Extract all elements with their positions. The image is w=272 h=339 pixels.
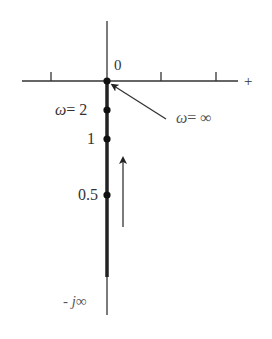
omega-symbol: ω <box>55 101 66 118</box>
omega-infinity-value: = ∞ <box>187 109 211 126</box>
negative-j-infinity-label: - j∞ <box>63 294 87 309</box>
point-omega-0.5 <box>103 191 110 198</box>
omega-0.5-label: 0.5 <box>78 187 98 203</box>
minus-sign: - <box>63 293 72 309</box>
omega-1-label: 1 <box>87 131 95 147</box>
point-omega-1 <box>103 135 110 142</box>
omega-infinity-label: ω= ∞ <box>176 110 212 126</box>
point-omega-infinity <box>103 77 110 84</box>
omega-symbol: ω <box>176 109 187 126</box>
positive-real-label: + <box>244 74 252 89</box>
polar-plot-canvas <box>0 0 272 339</box>
infinity-symbol: ∞ <box>76 293 87 309</box>
point-omega-2 <box>103 106 110 113</box>
omega-2-value: = 2 <box>66 101 87 118</box>
origin-label: 0 <box>114 58 122 73</box>
annotation-arrow <box>114 86 166 119</box>
omega-2-label: ω= 2 <box>55 102 87 118</box>
